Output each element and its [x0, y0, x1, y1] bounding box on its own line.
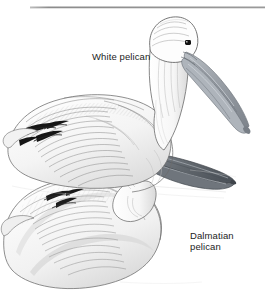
two-pelicans-drawing — [0, 0, 265, 298]
pelican-figure: White pelican Dalmatian pelican — [0, 0, 265, 298]
label-white-pelican: White pelican — [92, 51, 150, 62]
white-pelican-eye — [185, 40, 191, 45]
top-horizontal-rule — [30, 7, 265, 9]
label-dalmatian-pelican: Dalmatian pelican — [190, 230, 234, 252]
